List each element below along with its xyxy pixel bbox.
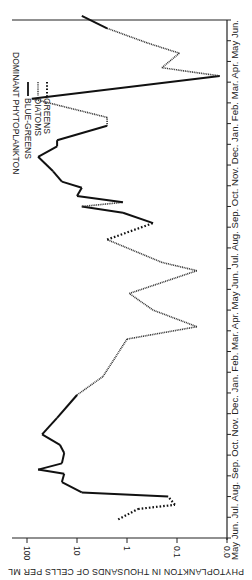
series-segment (77, 196, 123, 202)
series-segment (162, 53, 179, 67)
legend: DOMINANT PHYTOPLANKTON BLUE-GREENS DIATO… (11, 52, 52, 174)
series-segment (77, 376, 103, 395)
series-segment (82, 207, 123, 213)
value-axis-ticks (27, 538, 227, 543)
value-axis-title: PHYTOPLANKTON IN THOUSANDS OF CELLS PER … (8, 567, 244, 577)
legend-blue-greens: BLUE-GREENS (23, 98, 33, 159)
series-segment (147, 43, 179, 53)
ytick-100: 100 (22, 546, 32, 560)
series-segment (82, 16, 107, 28)
series-segment (118, 509, 138, 519)
phytoplankton-chart: 100 10 1 0.1 0.0 PHYTOPLANKTON IN THOUSA… (0, 0, 252, 580)
series-segment (82, 202, 123, 206)
series-segment (38, 157, 53, 172)
series-segment (57, 126, 107, 141)
series-segment (42, 418, 57, 435)
series-segment (38, 470, 64, 474)
series-segment (107, 28, 147, 43)
ytick-10: 10 (72, 546, 82, 556)
series-segment (42, 434, 60, 444)
series-segment (77, 188, 82, 196)
series-segment (82, 492, 168, 496)
ytick-0-1: 0.1 (172, 546, 182, 558)
series-segment (129, 294, 153, 311)
series-segment (138, 505, 175, 509)
series-segment (168, 497, 175, 505)
series-segment (123, 213, 153, 223)
time-axis-labels: May Jun. Jul. Aug. Sep. Oct. Nov. Dec. J… (230, 20, 240, 560)
legend-diatoms: DIATOMS (33, 98, 43, 136)
series-segment (38, 463, 62, 469)
legend-title: DOMINANT PHYTOPLANKTON (11, 52, 21, 174)
series-segment (162, 262, 197, 270)
series-segment (62, 474, 64, 482)
series-segment (62, 482, 82, 492)
ytick-1: 1 (122, 546, 132, 551)
series-segment (103, 339, 127, 376)
series-segment (162, 68, 220, 76)
series-segment (107, 223, 153, 240)
series-segment (32, 76, 220, 99)
series-segment (62, 182, 82, 188)
series-segment (60, 445, 64, 453)
value-axis-labels: 100 10 1 0.1 0.0 (22, 546, 232, 560)
series-segment (127, 327, 197, 339)
series-segment (53, 171, 62, 181)
phytoplankton-series (32, 16, 220, 520)
series-segment (153, 310, 197, 327)
series-segment (107, 240, 162, 263)
series-segment (57, 395, 77, 418)
series-segment (38, 146, 57, 156)
series-segment (129, 271, 197, 294)
series-segment (62, 453, 64, 463)
